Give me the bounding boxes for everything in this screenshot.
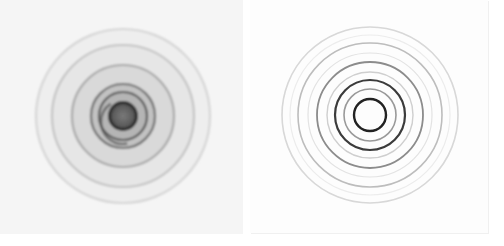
ring-7 xyxy=(344,89,396,141)
ring-5 xyxy=(327,72,413,158)
left-ring-pattern-image xyxy=(0,0,243,234)
right-ring-pattern-image xyxy=(250,0,488,233)
right-ring-pattern-panel xyxy=(250,0,488,233)
ring-8 xyxy=(354,99,386,131)
ring-4 xyxy=(317,62,423,168)
ring-1 xyxy=(290,35,450,195)
central-disc xyxy=(109,102,137,130)
ring-6 xyxy=(335,80,405,150)
left-ring-pattern-panel xyxy=(0,0,243,234)
ring-2 xyxy=(298,43,442,187)
